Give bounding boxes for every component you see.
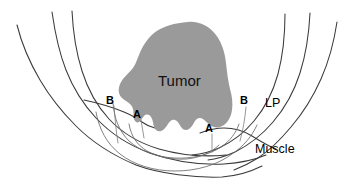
marker-label-b-left: B xyxy=(106,95,114,106)
muscle-boundary-curve xyxy=(96,112,257,171)
marker-label-a-right: A xyxy=(205,123,213,134)
marker-label-b-right: B xyxy=(240,95,248,106)
lamina-propria-label: LP xyxy=(265,97,280,110)
muscle-label: Muscle xyxy=(255,143,295,156)
marker-label-a-left: A xyxy=(133,109,141,120)
leader-line-b-right xyxy=(240,107,246,141)
tumor-label: Tumor xyxy=(158,73,201,88)
diagram-canvas xyxy=(0,0,356,196)
anatomical-diagram-figure: Tumor B A B A LP Muscle xyxy=(0,0,356,196)
